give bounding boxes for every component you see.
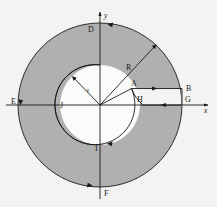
label-E: E (11, 97, 16, 106)
label-B: B (186, 84, 191, 93)
label-H: H (137, 95, 143, 104)
label-J: J (60, 101, 63, 110)
x-axis-label: x (203, 106, 208, 115)
label-I: I (95, 144, 98, 153)
figure-canvas: A B D E F G H I J R r x y (0, 0, 217, 207)
label-R: R (126, 63, 132, 72)
y-axis-label: y (103, 11, 108, 20)
label-D: D (88, 25, 94, 34)
label-F: F (104, 189, 109, 198)
annulus-diagram: A B D E F G H I J R r x y (0, 0, 217, 207)
label-G: G (185, 95, 191, 104)
label-A: A (131, 79, 137, 88)
